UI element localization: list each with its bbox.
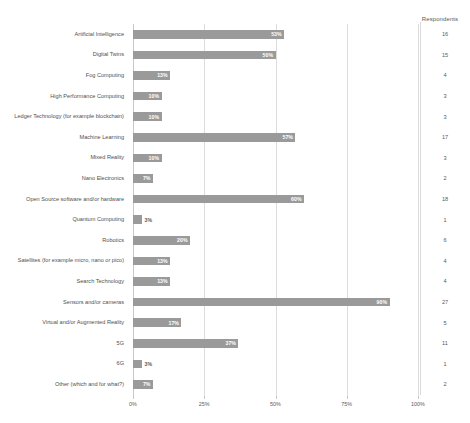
bar-value-label: 17% — [169, 320, 182, 326]
respondents-value: 1 — [420, 361, 470, 367]
bar-value-label: 37% — [226, 340, 239, 346]
chart-row: Mixed Reality10%3 — [0, 148, 470, 169]
bar-value-label: 7% — [143, 381, 153, 387]
bar[interactable]: 20% — [133, 236, 190, 245]
respondents-value: 5 — [420, 320, 470, 326]
category-label: Search Technology — [0, 278, 128, 285]
respondents-column-header: Respondents — [410, 16, 470, 22]
respondents-value: 2 — [420, 175, 470, 181]
bar-track: 20% — [133, 230, 418, 251]
category-label: Virtual and/or Augmented Reality — [0, 319, 128, 326]
bar-rows: Artificial Intelligence53%16Digital Twin… — [0, 24, 470, 395]
bar-value-label: 13% — [157, 278, 170, 284]
respondents-value: 3 — [420, 93, 470, 99]
chart-row: Other (which and for what?)7%2 — [0, 374, 470, 395]
bar-track: 50% — [133, 45, 418, 66]
x-tick-mark — [347, 396, 348, 399]
chart-row: High Performance Computing10%3 — [0, 86, 470, 107]
bar-track: 60% — [133, 189, 418, 210]
chart-row: Fog Computing13%4 — [0, 65, 470, 86]
bar[interactable]: 90% — [133, 298, 390, 307]
bar[interactable]: 13% — [133, 257, 170, 266]
bar-track: 10% — [133, 106, 418, 127]
bar-track: 53% — [133, 24, 418, 45]
bar[interactable]: 3% — [133, 215, 142, 224]
bar[interactable]: 13% — [133, 277, 170, 286]
bar-value-label: 90% — [377, 299, 390, 305]
category-label: Robotics — [0, 237, 128, 244]
category-label: Nano Electronics — [0, 175, 128, 182]
chart-row: 6G3%1 — [0, 354, 470, 375]
respondents-value: 18 — [420, 196, 470, 202]
respondents-value: 3 — [420, 114, 470, 120]
respondents-value: 4 — [420, 258, 470, 264]
bar-value-label: 50% — [263, 52, 276, 58]
category-label: Other (which and for what?) — [0, 381, 128, 388]
bar-track: 13% — [133, 251, 418, 272]
respondents-value: 11 — [420, 340, 470, 346]
bar-chart: Respondents Artificial Intelligence53%16… — [0, 0, 470, 423]
chart-row: Quantum Computing3%1 — [0, 209, 470, 230]
chart-row: Nano Electronics7%2 — [0, 168, 470, 189]
category-label: Ledger Technology (for example blockchai… — [0, 113, 128, 120]
bar[interactable]: 50% — [133, 51, 276, 60]
bar[interactable]: 57% — [133, 133, 295, 142]
bar-track: 13% — [133, 65, 418, 86]
bar[interactable]: 10% — [133, 112, 162, 121]
category-label: Machine Learning — [0, 134, 128, 141]
respondents-value: 27 — [420, 299, 470, 305]
chart-row: Open Source software and/or hardware60%1… — [0, 189, 470, 210]
bar-value-label: 13% — [157, 258, 170, 264]
category-label: Digital Twins — [0, 51, 128, 58]
bar-value-label: 3% — [142, 217, 153, 223]
bar[interactable]: 13% — [133, 71, 170, 80]
bar[interactable]: 17% — [133, 318, 181, 327]
bar[interactable]: 37% — [133, 339, 238, 348]
category-label: 6G — [0, 360, 128, 367]
respondents-value: 4 — [420, 278, 470, 284]
bar-value-label: 53% — [271, 31, 284, 37]
bar-track: 13% — [133, 271, 418, 292]
bar[interactable]: 7% — [133, 174, 153, 183]
bar-track: 3% — [133, 209, 418, 230]
bar-track: 7% — [133, 374, 418, 395]
category-label: Fog Computing — [0, 72, 128, 79]
bar[interactable]: 3% — [133, 360, 142, 369]
respondents-value: 6 — [420, 237, 470, 243]
x-tick-label: 75% — [341, 401, 352, 407]
chart-row: Ledger Technology (for example blockchai… — [0, 106, 470, 127]
bar-value-label: 10% — [149, 114, 162, 120]
respondents-value: 3 — [420, 155, 470, 161]
category-label: Satellites (for example micro, nano or p… — [0, 257, 128, 264]
x-tick-mark — [204, 396, 205, 399]
category-label: Open Source software and/or hardware — [0, 196, 128, 203]
bar-track: 10% — [133, 86, 418, 107]
bar-value-label: 3% — [142, 361, 153, 367]
category-label: Quantum Computing — [0, 216, 128, 223]
bar-value-label: 57% — [283, 134, 296, 140]
bar[interactable]: 7% — [133, 380, 153, 389]
x-tick-label: 25% — [199, 401, 210, 407]
x-tick-mark — [133, 396, 134, 399]
bar-track: 17% — [133, 312, 418, 333]
bar-value-label: 7% — [143, 175, 153, 181]
bar-value-label: 60% — [291, 196, 304, 202]
chart-row: 5G37%11 — [0, 333, 470, 354]
respondents-value: 16 — [420, 31, 470, 37]
bar-value-label: 20% — [177, 237, 190, 243]
bar[interactable]: 53% — [133, 30, 284, 39]
respondents-value: 15 — [420, 52, 470, 58]
chart-row: Sensors and/or cameras90%27 — [0, 292, 470, 313]
bar[interactable]: 10% — [133, 154, 162, 163]
bar[interactable]: 60% — [133, 195, 304, 204]
respondents-value: 2 — [420, 381, 470, 387]
chart-row: Artificial Intelligence53%16 — [0, 24, 470, 45]
chart-row: Virtual and/or Augmented Reality17%5 — [0, 312, 470, 333]
chart-row: Search Technology13%4 — [0, 271, 470, 292]
bar-track: 3% — [133, 354, 418, 375]
respondents-value: 4 — [420, 72, 470, 78]
bar[interactable]: 10% — [133, 92, 162, 101]
respondents-value: 1 — [420, 217, 470, 223]
respondents-value: 17 — [420, 134, 470, 140]
chart-row: Digital Twins50%15 — [0, 45, 470, 66]
